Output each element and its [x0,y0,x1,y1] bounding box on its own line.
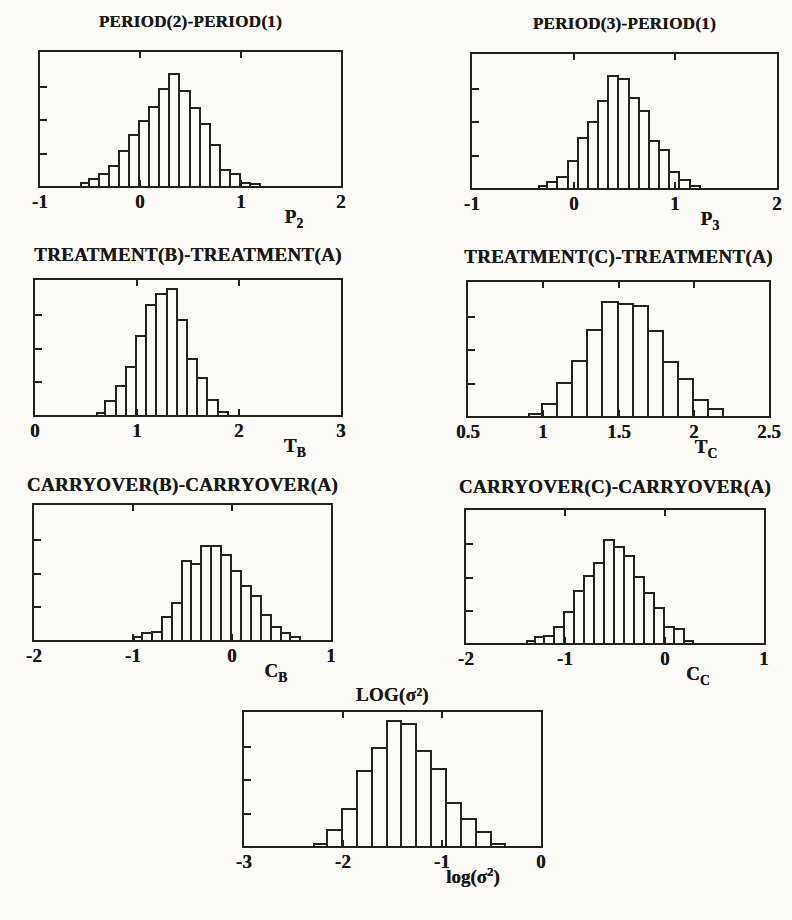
histogram-panel-period2-period1: PERIOD(2)-PERIOD(1)-1012P2 [38,50,343,188]
histogram-title: TREATMENT(B)-TREATMENT(A) [34,244,342,266]
y-axis-tick [40,153,47,155]
axis-label-text: C [265,660,279,681]
x-axis-tick [542,410,544,416]
x-axis-tick [618,282,620,288]
x-axis-tick [231,634,233,640]
y-axis-tick [35,314,42,316]
axis-label-text: log(σ [446,866,487,887]
histogram-title: PERIOD(3)-PERIOD(1) [533,14,716,34]
x-axis-variable-label: TC [695,436,718,458]
axis-label-subscript: 2 [296,216,303,231]
axis-label-text: C [686,663,700,684]
bars-layer [472,54,777,188]
histogram-panel-carryoverB-carryoverA: CARRYOVER(B)-CARRYOVER(A)-2-101CB [32,503,333,642]
y-axis-tick [466,543,473,545]
bars-layer [244,712,541,846]
y-axis-tick [472,121,479,123]
histogram-panel-carryoverC-carryoverA: CARRYOVER(C)-CARRYOVER(A)-2-101CC [464,508,766,645]
y-axis-tick [468,316,475,318]
x-axis-tick [132,634,134,640]
x-tick-label: 0 [30,420,40,442]
y-axis-tick [466,577,473,579]
x-axis-tick [240,52,242,58]
x-axis-variable-label: log(σ2) [446,866,500,888]
histogram-bar [490,843,506,846]
y-axis-tick [244,813,251,815]
axis-label-subscript: B [297,445,306,460]
x-tick-label: 0 [536,851,546,873]
x-tick-label: 0 [135,191,145,213]
x-axis-tick [231,505,233,511]
x-axis-tick [441,840,443,846]
x-tick-label: 1 [538,421,548,443]
x-axis-tick [674,54,676,60]
x-tick-label: 0 [569,193,579,215]
histogram-bar [707,408,724,416]
y-axis-tick [466,610,473,612]
x-axis-tick [618,410,620,416]
axis-label-subscript: 3 [712,218,719,233]
axis-label-subscript: C [707,446,717,461]
x-tick-label: 2.5 [757,421,781,443]
x-axis-tick [573,54,575,60]
bars-layer [40,52,341,186]
x-tick-label: 0 [227,645,237,667]
x-tick-label: -3 [236,851,252,873]
y-axis-tick [468,383,475,385]
histogram-bar [689,185,701,188]
histogram-panel-treatmentB-treatmentA: TREATMENT(B)-TREATMENT(A)0123TB [33,278,343,417]
axis-label-text: T [695,436,708,457]
histogram-panel-period3-period1: PERIOD(3)-PERIOD(1)-1012P3 [470,52,779,190]
x-axis-tick [693,282,695,288]
x-axis-tick [573,182,575,188]
histogram-bar [289,636,301,640]
bars-layer [35,280,341,415]
x-tick-label: -1 [464,193,480,215]
y-axis-tick [40,119,47,121]
x-tick-label: 1 [326,645,336,667]
figure-canvas: PERIOD(2)-PERIOD(1)-1012P2 PERIOD(3)-PER… [0,0,792,920]
histogram-title: CARRYOVER(C)-CARRYOVER(A) [459,476,771,498]
x-axis-tick [136,280,138,286]
axis-label-text: P [285,206,297,227]
axis-label-text: P [701,208,713,229]
x-axis-tick [132,505,134,511]
y-axis-tick [40,86,47,88]
x-tick-label: -1 [125,645,141,667]
axis-label-subscript: C [700,673,710,688]
x-axis-tick [139,52,141,58]
x-tick-label: -2 [458,648,474,670]
x-tick-label: 2 [336,191,346,213]
x-axis-tick [139,180,141,186]
x-tick-label: -2 [335,851,351,873]
x-axis-variable-label: P3 [701,208,719,230]
x-axis-tick [441,712,443,718]
histogram-bar [249,183,261,186]
x-tick-label: 0 [660,648,670,670]
x-tick-label: -1 [557,648,573,670]
axis-label-text: T [284,435,297,456]
x-axis-tick [693,410,695,416]
y-axis-tick [468,349,475,351]
x-axis-tick [664,510,666,516]
x-tick-label: -2 [26,645,42,667]
x-axis-tick [564,637,566,643]
y-axis-tick [244,746,251,748]
bars-layer [468,282,769,416]
x-axis-tick [240,180,242,186]
x-axis-tick [136,409,138,415]
y-axis-tick [472,155,479,157]
x-tick-label: 1 [132,420,142,442]
histogram-title: CARRYOVER(B)-CARRYOVER(A) [27,474,338,496]
x-axis-variable-label: TB [284,435,306,457]
histogram-title: PERIOD(2)-PERIOD(1) [99,12,282,32]
bars-layer [466,510,764,643]
histogram-title: TREATMENT(C)-TREATMENT(A) [464,246,773,268]
y-axis-tick [35,381,42,383]
x-tick-label: 3 [336,420,346,442]
x-axis-tick [564,510,566,516]
y-axis-tick [34,573,41,575]
x-tick-label: 0.5 [456,421,480,443]
y-axis-tick [244,779,251,781]
histogram-title: LOG(σ²) [356,684,429,706]
